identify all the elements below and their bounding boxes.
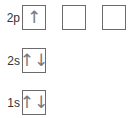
orbital-label-2s: 2s (2, 54, 20, 68)
electron-arrows: ↑↓ (20, 52, 49, 69)
orbital-box-1s: ↑↓ (22, 90, 46, 115)
electron-arrows: ↑↓ (20, 94, 49, 111)
orbital-box-2p-3 (102, 5, 126, 30)
orbital-label-2p: 2p (2, 11, 20, 25)
orbital-box-2p-2 (62, 5, 86, 30)
electron-arrows: ↑ (27, 9, 41, 26)
orbital-box-2p-1: ↑ (22, 5, 46, 30)
orbital-label-1s: 1s (2, 96, 20, 110)
orbital-box-2s: ↑↓ (22, 48, 46, 73)
